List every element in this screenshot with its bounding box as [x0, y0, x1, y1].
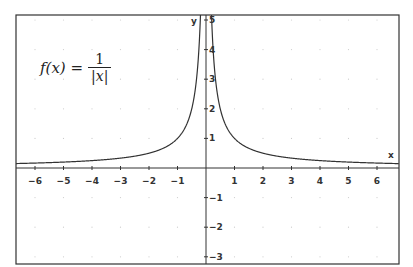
x-tick-label: −4	[85, 176, 99, 186]
x-tick-label: −2	[142, 176, 156, 186]
grid-dot	[34, 19, 35, 20]
grid-dot	[319, 227, 320, 228]
grid-dot	[120, 108, 121, 109]
grid-dot	[63, 197, 64, 198]
grid-dot	[376, 197, 377, 198]
curve-right-branch	[212, 15, 399, 164]
grid-dot	[291, 227, 292, 228]
grid-dot	[234, 49, 235, 50]
grid-dot	[291, 108, 292, 109]
grid-dot	[177, 256, 178, 257]
grid-dot	[91, 49, 92, 50]
grid-dot	[148, 49, 149, 50]
grid-dot	[348, 108, 349, 109]
grid-dot	[148, 197, 149, 198]
y-tick-label: −2	[209, 222, 223, 232]
grid-dot	[319, 19, 320, 20]
grid-dot	[319, 138, 320, 139]
function-plot: −6−5−4−3−2−112345654321−1−2−3xy	[0, 0, 413, 267]
grid-dot	[63, 108, 64, 109]
grid-dot	[148, 79, 149, 80]
grid-dot	[376, 227, 377, 228]
grid-dot	[234, 19, 235, 20]
grid-dot	[348, 79, 349, 80]
grid-dot	[120, 138, 121, 139]
grid-dot	[120, 79, 121, 80]
grid-dot	[262, 256, 263, 257]
grid-dot	[262, 79, 263, 80]
grid-dot	[63, 227, 64, 228]
grid-dot	[234, 108, 235, 109]
grid-dot	[348, 256, 349, 257]
y-axis-label: y	[191, 16, 197, 26]
grid-dot	[34, 79, 35, 80]
grid-dot	[34, 197, 35, 198]
x-axis-label: x	[388, 150, 394, 160]
grid-dot	[234, 79, 235, 80]
grid-dot	[234, 256, 235, 257]
grid-dot	[34, 227, 35, 228]
grid-dot	[120, 197, 121, 198]
grid-dot	[291, 79, 292, 80]
grid-dot	[148, 256, 149, 257]
x-tick-label: −6	[28, 176, 42, 186]
grid-dot	[177, 227, 178, 228]
grid-dot	[91, 256, 92, 257]
grid-dot	[148, 227, 149, 228]
grid-dot	[262, 197, 263, 198]
grid-dot	[376, 49, 377, 50]
x-tick-label: 4	[317, 176, 323, 186]
grid-dot	[376, 19, 377, 20]
y-tick-label: 2	[209, 104, 215, 114]
grid-dot	[262, 49, 263, 50]
grid-dot	[348, 227, 349, 228]
function-formula: f(x) = 1 |x|	[40, 52, 111, 84]
grid-dot	[120, 49, 121, 50]
y-tick-label: 3	[209, 74, 215, 84]
grid-dot	[319, 49, 320, 50]
grid-dot	[376, 79, 377, 80]
grid-dot	[319, 197, 320, 198]
grid-dot	[262, 108, 263, 109]
grid-dot	[291, 49, 292, 50]
grid-dot	[291, 197, 292, 198]
grid-dot	[120, 19, 121, 20]
grid-dot	[91, 227, 92, 228]
x-tick-label: 2	[260, 176, 266, 186]
grid-dot	[291, 256, 292, 257]
grid-dot	[319, 108, 320, 109]
y-tick-label: 4	[209, 45, 215, 55]
grid-dot	[177, 19, 178, 20]
grid-dot	[120, 227, 121, 228]
grid-dot	[91, 197, 92, 198]
grid-dot	[148, 19, 149, 20]
grid-dot	[291, 138, 292, 139]
grid-dot	[376, 256, 377, 257]
x-tick-label: 5	[345, 176, 351, 186]
grid-dot	[34, 108, 35, 109]
grid-dot	[34, 49, 35, 50]
x-tick-label: 6	[374, 176, 380, 186]
grid-dot	[348, 138, 349, 139]
grid-dot	[148, 138, 149, 139]
grid-dot	[234, 227, 235, 228]
grid-dot	[63, 256, 64, 257]
y-tick-label: −1	[209, 193, 223, 203]
grid-dot	[120, 256, 121, 257]
formula-denominator: |x|	[88, 67, 111, 84]
curve-left-branch	[16, 15, 200, 164]
grid-dot	[291, 19, 292, 20]
grid-dot	[63, 19, 64, 20]
grid-dot	[262, 19, 263, 20]
formula-fraction: 1 |x|	[88, 52, 111, 84]
grid-dot	[177, 49, 178, 50]
grid-dot	[63, 138, 64, 139]
grid-dot	[177, 197, 178, 198]
y-tick-label: −3	[209, 252, 223, 262]
grid-dot	[177, 108, 178, 109]
grid-dot	[319, 256, 320, 257]
grid-dot	[91, 138, 92, 139]
y-tick-label: 1	[209, 133, 215, 143]
x-tick-label: 3	[288, 176, 294, 186]
grid-dot	[91, 19, 92, 20]
